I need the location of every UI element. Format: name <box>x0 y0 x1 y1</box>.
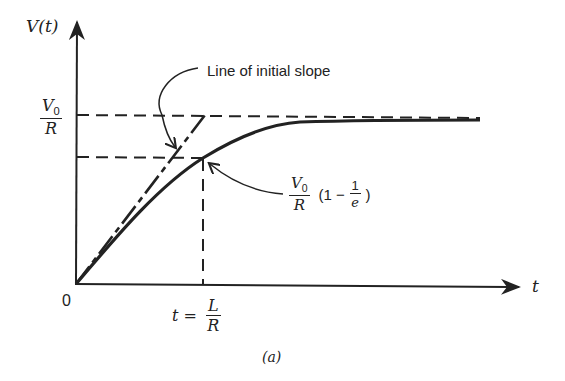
response-plot <box>0 0 565 381</box>
initial-slope-line <box>76 115 205 284</box>
time-constant-value-annotation: V0 R (1 − 1 e ) <box>289 176 371 213</box>
x-axis <box>75 284 519 287</box>
time-constant-level-dashed-line <box>77 157 203 158</box>
response-curve <box>76 120 480 284</box>
x-tick-l-over-r: t = L R <box>172 298 221 334</box>
y-tick-v0-over-r: V0 R <box>40 98 62 137</box>
initial-slope-annotation: Line of initial slope <box>207 63 330 78</box>
x-axis-label: t <box>532 278 539 295</box>
asymptote-dashed-line <box>77 115 480 118</box>
point-annotation-leader <box>210 164 283 194</box>
y-axis <box>76 22 77 284</box>
y-axis-label: V(t) <box>26 18 58 35</box>
figure-caption: (a) <box>262 350 281 364</box>
slope-annotation-leader <box>159 68 198 147</box>
origin-label: 0 <box>62 293 71 309</box>
